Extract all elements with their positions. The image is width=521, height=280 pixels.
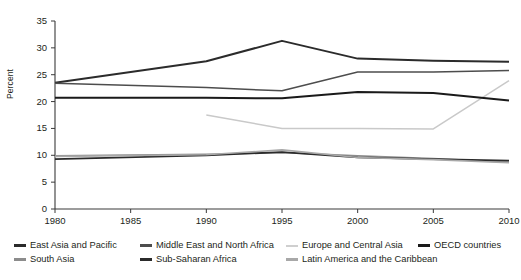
legend-item[interactable]: South Asia [14, 254, 74, 265]
x-tick-label: 2000 [338, 216, 378, 226]
x-tick-label: 1990 [186, 216, 226, 226]
axis-ticks [51, 21, 509, 213]
legend-item[interactable]: Latin America and the Caribbean [286, 254, 437, 265]
legend-color-swatch-icon [140, 244, 152, 247]
series-line [55, 41, 509, 83]
series-line [55, 92, 509, 101]
legend-item-label: Europe and Central Asia [302, 240, 403, 251]
legend-item-label: OECD countries [434, 240, 501, 251]
legend-color-swatch-icon [286, 245, 298, 247]
legend-item[interactable]: Sub-Saharan Africa [140, 254, 237, 265]
legend-item-label: Latin America and the Caribbean [302, 254, 437, 265]
legend-item[interactable]: Europe and Central Asia [286, 240, 403, 251]
y-tick-label: 20 [23, 97, 47, 107]
y-tick-label: 10 [23, 150, 47, 160]
legend-color-swatch-icon [14, 244, 26, 247]
legend-color-swatch-icon [14, 258, 26, 261]
y-tick-label: 25 [23, 70, 47, 80]
legend-item[interactable]: East Asia and Pacific [14, 240, 117, 251]
y-tick-label: 30 [23, 43, 47, 53]
x-tick-label: 2005 [413, 216, 453, 226]
legend-color-swatch-icon [286, 258, 298, 261]
legend-item-label: East Asia and Pacific [30, 240, 117, 251]
data-series-group [55, 41, 509, 163]
y-tick-label: 35 [23, 16, 47, 26]
x-tick-label: 1985 [111, 216, 151, 226]
legend-item-label: Sub-Saharan Africa [156, 254, 237, 265]
line-chart: 35302520151050 1980198519901995200020052… [0, 0, 521, 280]
y-axis-title: Percent [5, 83, 15, 99]
x-tick-label: 1980 [35, 216, 75, 226]
legend-item-label: South Asia [30, 254, 74, 265]
legend-color-swatch-icon [418, 244, 430, 247]
x-tick-label: 1995 [262, 216, 302, 226]
y-tick-label: 15 [23, 123, 47, 133]
legend-item[interactable]: OECD countries [418, 240, 501, 251]
series-line [206, 81, 509, 129]
legend-color-swatch-icon [140, 258, 152, 261]
plot-area [0, 0, 521, 240]
legend-item[interactable]: Middle East and North Africa [140, 240, 274, 251]
legend-item-label: Middle East and North Africa [156, 240, 274, 251]
y-tick-label: 0 [23, 204, 47, 214]
chart-legend: East Asia and PacificMiddle East and Nor… [0, 236, 521, 280]
x-tick-label: 2010 [489, 216, 521, 226]
y-tick-label: 5 [23, 177, 47, 187]
